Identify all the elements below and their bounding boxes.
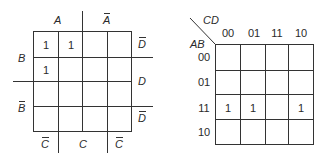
diagonal-divider <box>0 0 331 158</box>
label-ab: AB <box>190 38 205 50</box>
right-cell-r2-c1: 1 <box>241 102 265 114</box>
grid-line <box>215 119 313 120</box>
row-header-00: 00 <box>195 51 213 63</box>
grid-line <box>215 94 313 95</box>
grid-line <box>215 144 314 145</box>
label-cd: CD <box>203 14 219 26</box>
row-header-11: 11 <box>195 102 213 114</box>
row-header-01: 01 <box>195 76 213 88</box>
col-header-10: 10 <box>292 27 310 39</box>
col-header-11: 11 <box>268 27 286 39</box>
col-header-00: 00 <box>219 27 237 39</box>
row-header-10: 10 <box>195 126 213 138</box>
grid-line <box>215 70 313 71</box>
col-header-01: 01 <box>245 27 263 39</box>
right-cell-r2-c0: 1 <box>216 102 240 114</box>
grid-line <box>215 44 313 45</box>
right-cell-r2-c3: 1 <box>289 102 313 114</box>
grid-line <box>313 44 314 145</box>
